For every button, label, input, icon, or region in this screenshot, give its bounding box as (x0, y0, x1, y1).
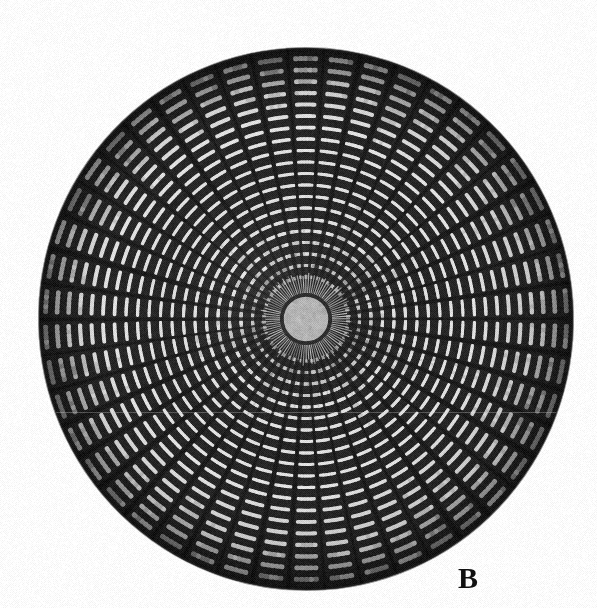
panel-label-b: B (458, 563, 478, 593)
diatom-micrograph-image (0, 0, 597, 608)
figure-root: B (0, 0, 597, 608)
